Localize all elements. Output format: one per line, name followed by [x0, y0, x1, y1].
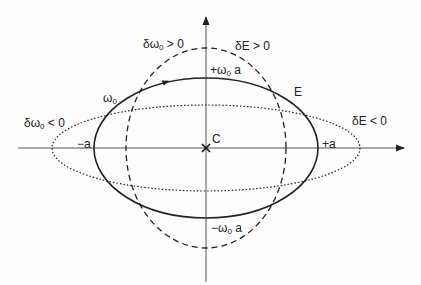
- origin-label: C: [212, 133, 221, 145]
- energy-label: E: [294, 86, 302, 98]
- delta-E-positive-label: δE > 0: [235, 40, 270, 52]
- delta-E-negative-label: δE < 0: [352, 115, 387, 127]
- flow-arrow-icon: [254, 212, 262, 214]
- delta-omega-positive-label: δω0 > 0: [143, 38, 184, 52]
- delta-omega-negative-label: δω0 < 0: [24, 117, 65, 131]
- phase-diagram: C E ω0 +a −a +ω0 a −ω0 a δω0 > 0 δω0 < 0…: [0, 0, 421, 285]
- plus-a-label: +a: [322, 138, 336, 150]
- minus-a-label: −a: [77, 138, 91, 150]
- flow-arrow-icon: [156, 66, 160, 72]
- plus-omega0-a-label: +ω0 a: [210, 64, 241, 78]
- diagram-canvas: [0, 0, 421, 285]
- omega0-label: ω0: [103, 92, 117, 106]
- minus-omega0-a-label: −ω0 a: [211, 222, 242, 236]
